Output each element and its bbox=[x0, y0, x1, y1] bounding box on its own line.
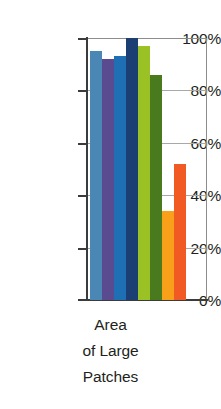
bar-6 bbox=[150, 75, 162, 300]
bar-1 bbox=[90, 51, 102, 300]
bar-8 bbox=[174, 164, 186, 300]
x-axis-label-line-2: of Large bbox=[0, 338, 221, 364]
x-axis-label-line-3: Patches bbox=[0, 364, 221, 390]
bar-group bbox=[88, 38, 207, 300]
bar-2 bbox=[102, 59, 114, 300]
x-axis-label-line-1: Area bbox=[0, 312, 221, 338]
bar-7 bbox=[162, 211, 174, 300]
x-axis-label: Area of Large Patches bbox=[0, 312, 221, 390]
bar-5 bbox=[138, 46, 150, 300]
bar-chart-figure: 100% 80% 60% 40% 20% 0% Area of Large Pa… bbox=[0, 0, 221, 409]
bar-3 bbox=[114, 56, 126, 300]
bar-4 bbox=[126, 38, 138, 300]
